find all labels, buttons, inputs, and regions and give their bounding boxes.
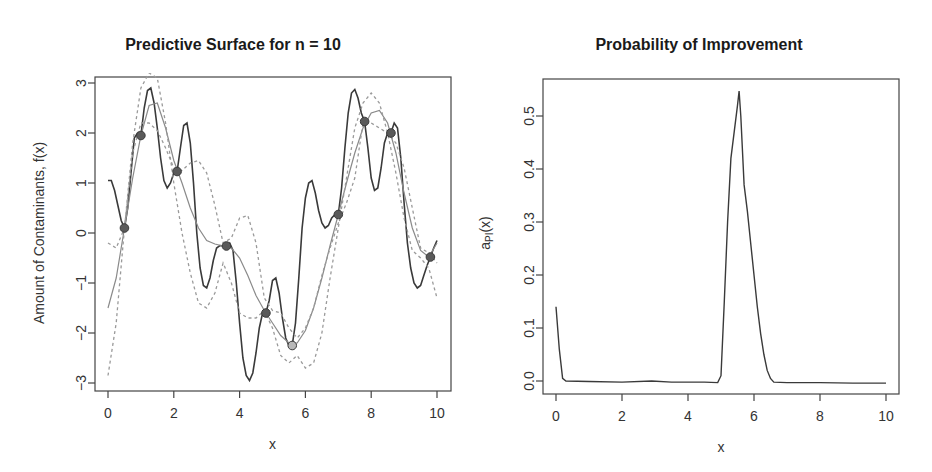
x-tick-label: 4 — [236, 405, 244, 421]
y-tick-label: 0.2 — [521, 265, 537, 285]
x-tick-label: 8 — [367, 405, 375, 421]
y-axis-label: Amount of Contaminants, f(x) — [31, 142, 47, 324]
y-tick-label: 0.4 — [521, 159, 537, 179]
predictive-mean-line — [108, 103, 437, 343]
observed-point — [387, 129, 396, 138]
x-tick-label: 4 — [684, 408, 692, 424]
x-axis-label: x — [718, 439, 725, 455]
y-tick-label: 0.0 — [521, 371, 537, 391]
x-tick-label: 0 — [104, 405, 112, 421]
confidence-band-line — [108, 73, 437, 376]
x-tick-label: 6 — [750, 408, 758, 424]
predictive-surface-panel: Predictive Surface for n = 10 0246810−3−… — [0, 0, 466, 472]
y-tick-label: 0.1 — [521, 318, 537, 338]
x-tick-label: 8 — [816, 408, 824, 424]
observed-point — [120, 224, 129, 233]
y-tick-label: −3 — [73, 375, 89, 391]
observed-point — [173, 167, 182, 176]
probability-improvement-line — [556, 91, 886, 383]
observed-point — [334, 210, 343, 219]
y-tick-label: 1 — [73, 179, 89, 187]
y-tick-label: 0.3 — [521, 212, 537, 232]
predictive-surface-plot: 0246810−3−2−10123xAmount of Contaminants… — [0, 0, 466, 472]
x-tick-label: 0 — [552, 408, 560, 424]
x-tick-label: 10 — [429, 405, 445, 421]
observed-point — [137, 131, 146, 140]
probability-improvement-plot: 02468100.00.10.20.30.40.5xaPI(x) — [466, 0, 932, 472]
y-tick-label: −1 — [73, 275, 89, 291]
x-tick-label: 10 — [878, 408, 894, 424]
observed-point — [222, 242, 231, 251]
y-tick-label: 2 — [73, 129, 89, 137]
plot-frame — [95, 77, 451, 391]
y-axis-label: aPI(x) — [477, 216, 495, 250]
plot-frame — [543, 79, 899, 394]
y-tick-label: 0.5 — [521, 106, 537, 126]
confidence-band-line — [108, 123, 437, 338]
y-tick-label: 0 — [73, 229, 89, 237]
y-tick-label: −2 — [73, 325, 89, 341]
observed-point — [426, 253, 435, 262]
x-axis-label: x — [269, 436, 276, 452]
probability-improvement-panel: Probability of Improvement 02468100.00.1… — [466, 0, 932, 472]
observed-point — [360, 117, 369, 126]
next-sample-point — [288, 341, 297, 350]
x-tick-label: 2 — [170, 405, 178, 421]
x-tick-label: 6 — [302, 405, 310, 421]
observed-point — [262, 309, 271, 318]
x-tick-label: 2 — [618, 408, 626, 424]
y-tick-label: 3 — [73, 79, 89, 87]
